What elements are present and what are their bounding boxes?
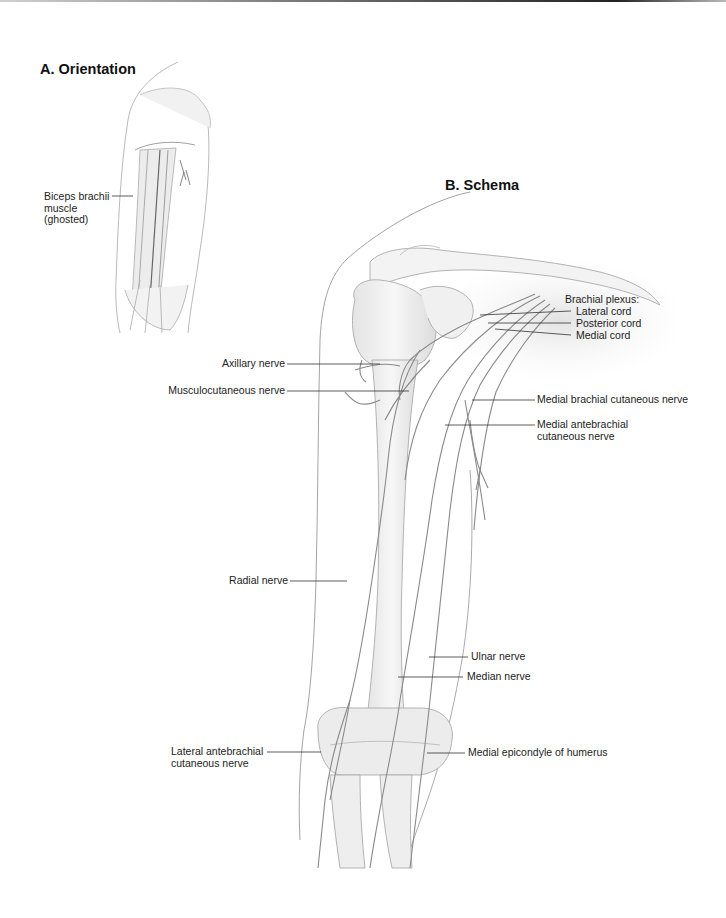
label-ulnar-nerve: Ulnar nerve	[471, 651, 525, 663]
panel-a-title: A. Orientation	[40, 61, 136, 77]
label-medial-epicondyle-of-humerus: Medial epicondyle of humerus	[468, 747, 608, 759]
label-musculocutaneous-nerve: Musculocutaneous nerve	[140, 385, 285, 397]
label-medial-antebrachial-cutaneous-nerve: Medial antebrachial cutaneous nerve	[537, 419, 628, 442]
panel-b-title: B. Schema	[445, 177, 519, 193]
label-medial-brachial-cutaneous-nerve: Medial brachial cutaneous nerve	[537, 394, 688, 406]
label-posterior-cord: Posterior cord	[576, 318, 641, 330]
label-lateral-cord: Lateral cord	[576, 306, 631, 318]
orientation-arm-illustration	[116, 62, 211, 333]
label-brachial-plexus: Brachial plexus:	[565, 294, 639, 306]
label-biceps-brachii: Biceps brachii muscle (ghosted)	[44, 191, 109, 226]
label-radial-nerve: Radial nerve	[200, 575, 288, 587]
label-medial-cord: Medial cord	[576, 330, 630, 342]
label-lateral-antebrachial-cutaneous-nerve: Lateral antebrachial cutaneous nerve	[171, 746, 263, 769]
label-median-nerve: Median nerve	[467, 671, 531, 683]
anatomy-illustration	[0, 0, 726, 918]
label-axillary-nerve: Axillary nerve	[205, 358, 285, 370]
